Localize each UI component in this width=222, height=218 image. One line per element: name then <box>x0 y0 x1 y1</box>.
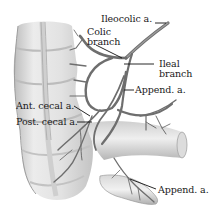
label-colic-branch-line2: branch <box>87 37 120 47</box>
anatomy-illustration: Ileocolic a. Colic branch Ileal branch A… <box>0 0 222 218</box>
label-anterior-cecal-artery: Ant. cecal a. <box>16 101 74 111</box>
terminal-ileum <box>86 121 187 160</box>
label-ileocolic-artery: Ileocolic a. <box>101 14 152 24</box>
label-ileal-branch-line2: branch <box>159 69 192 79</box>
label-appendicular-artery-lower: Append. a. <box>158 185 209 195</box>
label-appendicular-artery-upper: Append. a. <box>135 85 186 95</box>
label-posterior-cecal-artery: Post. cecal a. <box>16 117 78 127</box>
